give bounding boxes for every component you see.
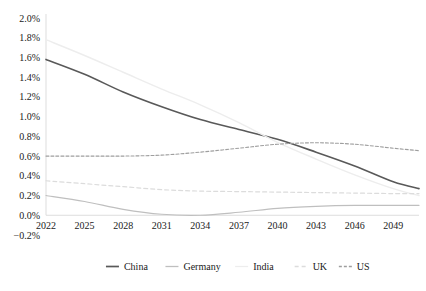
legend-label-uk[interactable]: UK	[313, 261, 328, 272]
y-axis-tick-label: 0.8%	[19, 131, 40, 142]
x-axis-tick-label: 2040	[268, 220, 288, 231]
x-axis-tick-labels: 2022202520282031203420372040204320462049	[36, 220, 403, 231]
y-axis-tick-label: 1.0%	[19, 111, 40, 122]
y-axis-tick-label: 0.2%	[19, 190, 40, 201]
series-line-india	[46, 40, 419, 196]
y-axis-tick-labels: 2.0%1.8%1.6%1.4%1.2%1.0%0.8%0.6%0.4%0.2%…	[14, 13, 40, 241]
chart-legend: ChinaGermanyIndiaUKUS	[106, 261, 370, 272]
legend-label-germany[interactable]: Germany	[183, 261, 220, 272]
series-line-us	[46, 143, 419, 156]
y-axis-tick-label: 0.0%	[19, 210, 40, 221]
x-axis-tick-label: 2034	[190, 220, 210, 231]
y-axis-tick-label: 2.0%	[19, 13, 40, 24]
y-axis-tick-label: 1.8%	[19, 32, 40, 43]
chart-canvas: 2.0%1.8%1.6%1.4%1.2%1.0%0.8%0.6%0.4%0.2%…	[0, 0, 426, 291]
series-line-germany	[46, 196, 419, 216]
x-axis-tick-label: 2022	[36, 220, 56, 231]
y-axis-tick-label: 1.6%	[19, 52, 40, 63]
series-line-china	[46, 59, 419, 188]
x-axis-tick-label: 2046	[345, 220, 365, 231]
series-line-uk	[46, 181, 419, 194]
legend-label-china[interactable]: China	[124, 261, 148, 272]
y-axis-tick-label: 0.4%	[19, 170, 40, 181]
x-axis-tick-label: 2031	[152, 220, 172, 231]
legend-label-us[interactable]: US	[357, 261, 370, 272]
x-axis-tick-label: 2043	[306, 220, 326, 231]
y-axis-tick-label: 1.4%	[19, 72, 40, 83]
legend-label-india[interactable]: India	[253, 261, 274, 272]
y-axis-tick-label: 1.2%	[19, 91, 40, 102]
line-chart: 2.0%1.8%1.6%1.4%1.2%1.0%0.8%0.6%0.4%0.2%…	[0, 0, 426, 291]
x-axis-tick-label: 2049	[383, 220, 403, 231]
y-axis-tick-label: 0.6%	[19, 151, 40, 162]
x-axis-tick-label: 2037	[229, 220, 249, 231]
x-axis-tick-label: 2025	[75, 220, 95, 231]
x-axis-tick-label: 2028	[113, 220, 133, 231]
data-series-group	[46, 40, 419, 216]
